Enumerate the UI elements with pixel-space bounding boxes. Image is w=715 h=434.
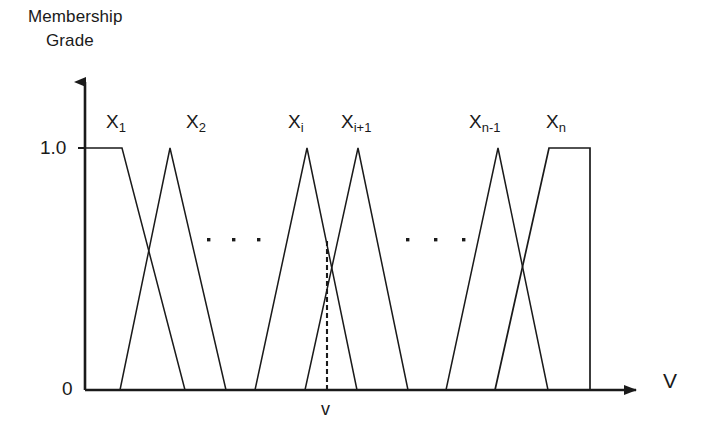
- set-label-x2: X2: [186, 112, 206, 134]
- set-label-x1: X1: [106, 112, 126, 134]
- set-label-xn-minus-1-subscript: n-1: [482, 120, 501, 135]
- set-label-xn: Xn: [546, 112, 566, 134]
- set-label-x2-base: X: [186, 111, 199, 132]
- set-label-xn-subscript: n: [559, 120, 566, 135]
- v-point-label: v: [321, 400, 330, 418]
- set-label-xi-subscript: i: [301, 120, 304, 135]
- y-tick-label-1-0: 1.0: [40, 138, 66, 157]
- y-tick-label-0: 0: [62, 379, 73, 398]
- set-label-xi-plus-1-subscript: i+1: [354, 120, 372, 135]
- set-label-xi: Xi: [288, 112, 304, 134]
- set-label-x2-subscript: 2: [199, 120, 206, 135]
- membership-curve-xn-minus-1: [446, 148, 548, 390]
- y-axis-title-line-1: Membership: [28, 8, 123, 25]
- set-label-x1-base: X: [106, 111, 119, 132]
- membership-curve-xi-plus-1: [305, 148, 408, 390]
- set-label-xi-plus-1-base: X: [341, 111, 354, 132]
- set-label-x1-subscript: 1: [119, 120, 126, 135]
- set-label-xn-minus-1: Xn-1: [469, 112, 500, 134]
- ellipsis-dots-right: [406, 238, 465, 241]
- x-axis-name-label: V: [663, 370, 677, 391]
- ellipsis-dots-left: [207, 238, 260, 241]
- y-axis-title-line-2: Grade: [46, 32, 94, 49]
- set-label-xn-minus-1-base: X: [469, 111, 482, 132]
- membership-curve-xn: [495, 148, 590, 390]
- set-label-xi-plus-1: Xi+1: [341, 112, 371, 134]
- membership-curve-x1: [85, 148, 185, 390]
- membership-curve-xi: [255, 148, 357, 390]
- set-label-xn-base: X: [546, 111, 559, 132]
- membership-curve-x2: [120, 148, 226, 390]
- membership-plot-canvas: [0, 0, 715, 434]
- set-label-xi-base: X: [288, 111, 301, 132]
- fuzzy-membership-figure: Membership Grade 1.0 0 V v X1 X2 Xi Xi+1…: [0, 0, 715, 434]
